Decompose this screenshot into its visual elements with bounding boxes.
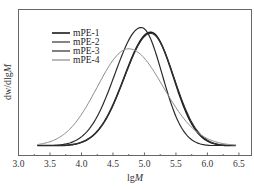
x-axis-label: lgM xyxy=(127,172,144,183)
curve-mpe-4 xyxy=(37,49,235,145)
gpc-distribution-chart: 3.03.54.04.55.05.56.06.5 mPE-1mPE-2mPE-3… xyxy=(0,0,254,189)
curves-group xyxy=(37,27,235,145)
x-tick-label: 6.0 xyxy=(201,159,213,169)
x-tick-label: 3.0 xyxy=(13,159,25,169)
y-axis-label: dw/dlgM xyxy=(2,63,13,100)
legend: mPE-1mPE-2mPE-3mPE-4 xyxy=(52,28,100,65)
x-tick-label: 5.5 xyxy=(170,159,182,169)
x-tick-label: 4.5 xyxy=(107,159,119,169)
x-tick-label: 6.5 xyxy=(233,159,245,169)
x-tick-label: 5.0 xyxy=(139,159,151,169)
curve-mpe-3 xyxy=(37,27,235,145)
x-axis-ticks: 3.03.54.04.55.05.56.06.5 xyxy=(13,153,246,170)
curve-mpe-2 xyxy=(37,33,235,145)
x-tick-label: 4.0 xyxy=(76,159,88,169)
legend-label: mPE-4 xyxy=(73,55,100,65)
x-tick-label: 3.5 xyxy=(44,159,56,169)
